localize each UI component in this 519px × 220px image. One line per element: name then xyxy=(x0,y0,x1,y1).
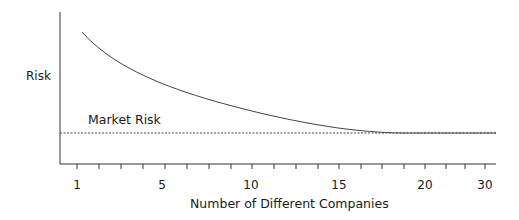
x-tick-label-10: 10 xyxy=(243,178,258,192)
x-tick-label-1: 1 xyxy=(73,178,81,192)
x-tick-label-15: 15 xyxy=(331,178,346,192)
x-axis-label: Number of Different Companies xyxy=(190,196,389,211)
y-axis-label: Risk xyxy=(26,69,51,83)
x-tick-label-5: 5 xyxy=(158,178,166,192)
market-risk-label: Market Risk xyxy=(88,112,161,127)
x-tick-label-30: 30 xyxy=(477,178,492,192)
x-tick-label-20: 20 xyxy=(417,178,432,192)
x-axis-ticks xyxy=(77,164,485,169)
